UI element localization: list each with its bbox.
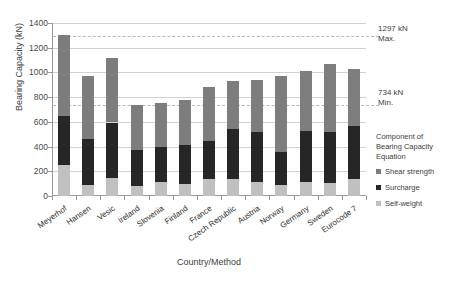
bar-segment-shear-strength[interactable] [251, 80, 263, 132]
bar-group[interactable] [82, 76, 94, 196]
bar-group[interactable] [155, 103, 167, 196]
bar-segment-self-weight[interactable] [227, 179, 239, 196]
bar-segment-self-weight[interactable] [203, 179, 215, 196]
y-tick-label: 200 [4, 167, 48, 176]
bar-segment-shear-strength[interactable] [227, 81, 239, 129]
bar-segment-surcharge[interactable] [155, 147, 167, 182]
bar-segment-self-weight[interactable] [275, 185, 287, 196]
bar-group[interactable] [227, 81, 239, 196]
x-tick-mark [366, 196, 367, 200]
y-axis-tick-labels: 0200400600800100012001400 [0, 23, 48, 196]
legend-item[interactable]: Shear strength [376, 167, 460, 176]
bar-segment-surcharge[interactable] [131, 150, 143, 186]
bar-segment-shear-strength[interactable] [348, 69, 360, 126]
bar-segment-surcharge[interactable] [324, 132, 336, 183]
bar-segment-self-weight[interactable] [300, 182, 312, 196]
bar-group[interactable] [348, 69, 360, 196]
bar-segment-surcharge[interactable] [82, 139, 94, 185]
bar-segment-self-weight[interactable] [251, 182, 263, 196]
min-reference-value: 734 kN [378, 88, 403, 98]
bar-segment-surcharge[interactable] [251, 132, 263, 183]
bearing-capacity-chart: Bearing Capacity (kN) 020040060080010001… [0, 0, 461, 283]
bar-segment-shear-strength[interactable] [131, 105, 143, 149]
bar-segment-shear-strength[interactable] [179, 100, 191, 145]
x-tick-mark [52, 196, 53, 200]
y-tick-label: 1400 [4, 19, 48, 28]
bars-layer [52, 23, 366, 196]
min-reference-annotation: 734 kN Min. [378, 88, 403, 108]
max-reference-label: Max. [378, 34, 408, 44]
bar-segment-self-weight[interactable] [324, 183, 336, 196]
legend-title-line: Equation [376, 152, 460, 162]
legend: Component ofBearing CapacityEquation She… [376, 132, 460, 215]
bar-segment-surcharge[interactable] [179, 145, 191, 185]
y-tick-label: 800 [4, 93, 48, 102]
bar-group[interactable] [58, 35, 70, 196]
bar-segment-self-weight[interactable] [179, 184, 191, 196]
x-tick-mark [149, 196, 150, 200]
legend-item[interactable]: Self-weight [376, 199, 460, 208]
max-reference-value: 1297 kN [378, 24, 408, 34]
legend-swatch-icon [376, 201, 381, 206]
bar-segment-surcharge[interactable] [203, 141, 215, 179]
legend-swatch-icon [376, 169, 381, 174]
bar-group[interactable] [203, 87, 215, 196]
x-tick-mark [245, 196, 246, 200]
legend-items: Shear strengthSurchargeSelf-weight [376, 167, 460, 208]
max-reference-annotation: 1297 kN Max. [378, 24, 408, 44]
legend-label: Shear strength [385, 167, 434, 176]
bar-segment-self-weight[interactable] [58, 165, 70, 196]
x-tick-mark [269, 196, 270, 200]
y-tick-label: 600 [4, 118, 48, 127]
legend-swatch-icon [376, 185, 381, 190]
x-tick-mark [173, 196, 174, 200]
bar-segment-surcharge[interactable] [300, 131, 312, 182]
legend-label: Self-weight [385, 199, 422, 208]
bar-segment-self-weight[interactable] [82, 185, 94, 196]
bar-group[interactable] [251, 80, 263, 196]
x-tick-mark [100, 196, 101, 200]
x-tick-mark [76, 196, 77, 200]
bar-group[interactable] [324, 64, 336, 196]
legend-title-line: Component of [376, 132, 460, 142]
x-tick-mark [318, 196, 319, 200]
bar-segment-self-weight[interactable] [131, 186, 143, 197]
bar-segment-surcharge[interactable] [58, 116, 70, 165]
x-tick-mark [342, 196, 343, 200]
y-tick-label: 1000 [4, 68, 48, 77]
min-reference-label: Min. [378, 98, 403, 108]
legend-title-line: Bearing Capacity [376, 142, 460, 152]
bar-segment-self-weight[interactable] [155, 182, 167, 196]
bar-segment-surcharge[interactable] [227, 129, 239, 179]
bar-segment-shear-strength[interactable] [275, 76, 287, 152]
bar-segment-shear-strength[interactable] [155, 103, 167, 147]
bar-segment-surcharge[interactable] [348, 126, 360, 179]
bar-segment-shear-strength[interactable] [58, 35, 70, 115]
x-tick-mark [124, 196, 125, 200]
x-tick-mark [294, 196, 295, 200]
bar-segment-shear-strength[interactable] [300, 71, 312, 130]
bar-segment-surcharge[interactable] [275, 152, 287, 185]
bar-group[interactable] [275, 76, 287, 196]
legend-title: Component ofBearing CapacityEquation [376, 132, 460, 161]
bar-segment-self-weight[interactable] [348, 179, 360, 196]
bar-group[interactable] [179, 100, 191, 196]
y-tick-label: 0 [4, 192, 48, 201]
y-tick-label: 400 [4, 142, 48, 151]
bar-segment-shear-strength[interactable] [82, 76, 94, 139]
bar-group[interactable] [106, 58, 118, 196]
bar-segment-self-weight[interactable] [106, 178, 118, 196]
legend-item[interactable]: Surcharge [376, 183, 460, 192]
x-tick-mark [221, 196, 222, 200]
x-axis-title: Country/Method [52, 257, 366, 267]
bar-segment-shear-strength[interactable] [106, 58, 118, 122]
bar-segment-shear-strength[interactable] [324, 64, 336, 132]
bar-segment-shear-strength[interactable] [203, 87, 215, 141]
x-tick-mark [197, 196, 198, 200]
bar-group[interactable] [131, 105, 143, 196]
legend-label: Surcharge [385, 183, 420, 192]
bar-group[interactable] [300, 71, 312, 196]
y-tick-label: 1200 [4, 43, 48, 52]
bar-segment-surcharge[interactable] [106, 123, 118, 179]
